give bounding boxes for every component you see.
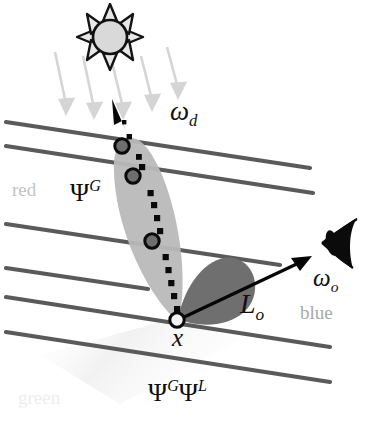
eye-icon — [322, 218, 357, 268]
scattering-diagram — [0, 0, 377, 429]
omega-d-base: ω — [170, 96, 189, 126]
omega-o-base: ω — [313, 264, 331, 291]
scatter-node — [115, 139, 129, 153]
psi-global-sup: G — [89, 177, 101, 194]
label-psi-global-local: ΨGΨL — [148, 378, 207, 406]
radiance-base: L — [240, 288, 256, 319]
label-band-green: green — [18, 388, 60, 407]
stripe-line — [6, 122, 310, 168]
label-omega-d: ωd — [170, 98, 197, 130]
radiance-sub: o — [256, 305, 265, 324]
psi-local-base: Ψ — [179, 378, 198, 407]
label-band-blue: blue — [300, 303, 333, 322]
label-point-x: x — [172, 325, 183, 350]
label-radiance-out: Lo — [240, 290, 264, 323]
faint-light-beam — [40, 318, 240, 404]
psi-global2-sup: G — [167, 377, 179, 394]
omega-o-sub: o — [331, 278, 339, 295]
psi-local-sup: L — [198, 377, 207, 394]
label-omega-o: ωo — [313, 265, 338, 295]
sun-ray-arrows — [55, 47, 185, 117]
label-band-red: red — [12, 180, 36, 199]
label-psi-global: ΨG — [70, 178, 101, 206]
scatter-node — [126, 169, 140, 183]
sun-icon — [77, 4, 143, 70]
psi-global2-base: Ψ — [148, 378, 167, 407]
psi-global-base: Ψ — [70, 178, 89, 207]
omega-d-sub: d — [189, 111, 197, 130]
scatter-node — [145, 234, 159, 248]
stripe-line — [6, 268, 148, 289]
